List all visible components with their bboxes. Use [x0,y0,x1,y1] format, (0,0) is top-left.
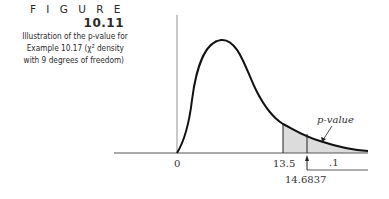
chi-square-density-chart: 0 13.5 14.6837 .1 p-value [0,0,389,199]
label-tail-area: .1 [329,157,339,168]
shaded-pvalue-region [283,124,368,153]
tick-zero: 0 [174,158,180,169]
density-curve [177,40,368,153]
label-pvalue: p-value [317,114,354,125]
stat-arrow-head-icon [305,155,309,161]
label-test-statistic: 14.6837 [285,174,326,185]
tick-13-5: 13.5 [273,158,295,169]
pvalue-pointer [323,126,332,140]
